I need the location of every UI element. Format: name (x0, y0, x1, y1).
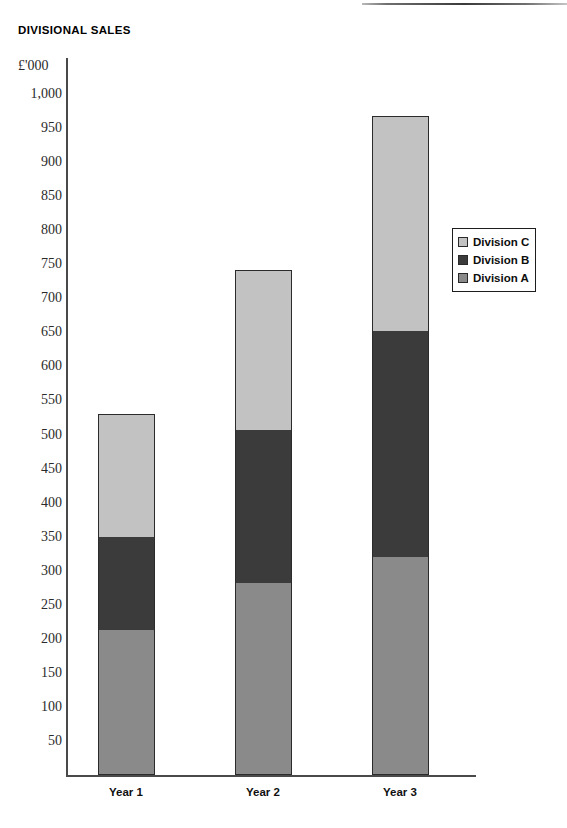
y-axis-tick-label: 1,000 (4, 86, 62, 102)
y-axis-tick-label: 200 (4, 631, 62, 647)
y-axis-tick-label: 550 (4, 392, 62, 408)
bar-segment-a[interactable] (99, 630, 154, 774)
y-axis-line (66, 58, 68, 776)
y-axis-tick-label: 50 (4, 733, 62, 749)
x-axis-category-label: Year 3 (383, 786, 417, 798)
legend-item[interactable]: Division A (458, 269, 529, 287)
chart-plot-area: £'000 1,00095090085080075070065060055050… (0, 0, 567, 828)
bar-segment-c[interactable] (373, 117, 428, 330)
x-axis-category-label: Year 2 (246, 786, 280, 798)
legend-item-label: Division B (473, 254, 529, 266)
y-axis-tick-labels: 1,00095090085080075070065060055050045040… (0, 0, 62, 828)
bar-segment-a[interactable] (373, 557, 428, 774)
legend-item-label: Division C (473, 236, 529, 248)
x-axis-line (66, 775, 476, 777)
y-axis-tick-label: 700 (4, 290, 62, 306)
y-axis-tick-label: 750 (4, 256, 62, 272)
bar-segment-c[interactable] (236, 271, 291, 430)
legend-swatch-icon (458, 255, 468, 265)
y-axis-tick-label: 300 (4, 563, 62, 579)
legend-swatch-icon (458, 273, 468, 283)
y-axis-tick-label: 500 (4, 427, 62, 443)
legend-item-label: Division A (473, 272, 529, 284)
y-axis-tick-label: 250 (4, 597, 62, 613)
bar-segment-b[interactable] (373, 331, 428, 557)
y-axis-tick-label: 950 (4, 120, 62, 136)
bar-segment-b[interactable] (99, 537, 154, 630)
bar-1[interactable] (98, 414, 155, 775)
chart-legend: Division CDivision BDivision A (452, 228, 536, 292)
legend-swatch-icon (458, 237, 468, 247)
y-axis-tick-label: 650 (4, 324, 62, 340)
bar-2[interactable] (235, 270, 292, 775)
legend-item[interactable]: Division C (458, 233, 529, 251)
y-axis-tick-label: 850 (4, 188, 62, 204)
y-axis-tick-label: 400 (4, 495, 62, 511)
bar-segment-a[interactable] (236, 583, 291, 774)
y-axis-tick-label: 800 (4, 222, 62, 238)
y-axis-tick-label: 450 (4, 461, 62, 477)
bar-segment-c[interactable] (99, 415, 154, 537)
y-axis-tick-label: 350 (4, 529, 62, 545)
bar-3[interactable] (372, 116, 429, 775)
y-axis-tick-label: 150 (4, 665, 62, 681)
x-axis-category-label: Year 1 (109, 786, 143, 798)
y-axis-tick-label: 600 (4, 358, 62, 374)
y-axis-tick-label: 900 (4, 154, 62, 170)
bar-segment-b[interactable] (236, 430, 291, 583)
legend-item[interactable]: Division B (458, 251, 529, 269)
y-axis-tick-label: 100 (4, 699, 62, 715)
